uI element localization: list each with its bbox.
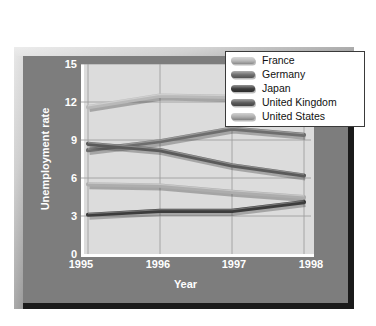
legend-label-germany: Germany: [262, 69, 305, 80]
legend-item-germany[interactable]: Germany: [231, 68, 360, 82]
y-tick-6: 6: [51, 173, 77, 184]
x-tick-1995: 1995: [59, 258, 103, 270]
legend-item-united-states[interactable]: United States: [231, 109, 360, 123]
y-axis-tick-labels: 15 12 9 6 3 0: [47, 64, 77, 254]
x-tick-1996: 1996: [136, 258, 180, 270]
legend-item-france[interactable]: France: [231, 54, 360, 68]
legend-label-france: France: [262, 55, 295, 66]
frame-bevel-left: [14, 47, 23, 309]
y-tick-15: 15: [51, 59, 77, 70]
x-tick-1997: 1997: [212, 258, 256, 270]
legend-label-japan: Japan: [262, 83, 291, 94]
legend-label-united-kingdom: United Kingdom: [262, 97, 337, 108]
legend-item-united-kingdom[interactable]: United Kingdom: [231, 95, 360, 109]
chart-area: Unemployment rate Year 15 12 9 6 3 0 199…: [23, 56, 348, 303]
chart-legend: France Germany Japan United Kingdom Unit…: [225, 51, 365, 127]
legend-swatch-germany-icon: [231, 71, 255, 78]
legend-swatch-france-icon: [231, 57, 255, 64]
x-tick-1998: 1998: [289, 258, 333, 270]
y-tick-3: 3: [51, 211, 77, 222]
y-tick-12: 12: [51, 97, 77, 108]
y-tick-9: 9: [51, 135, 77, 146]
legend-label-united-states: United States: [262, 111, 325, 122]
legend-swatch-japan-icon: [231, 85, 255, 92]
legend-swatch-united-states-icon: [231, 113, 255, 120]
chart-figure-frame: Unemployment rate Year 15 12 9 6 3 0 199…: [14, 47, 354, 309]
legend-item-japan[interactable]: Japan: [231, 82, 360, 96]
x-axis-title: Year: [23, 278, 348, 290]
legend-swatch-united-kingdom-icon: [231, 99, 255, 106]
